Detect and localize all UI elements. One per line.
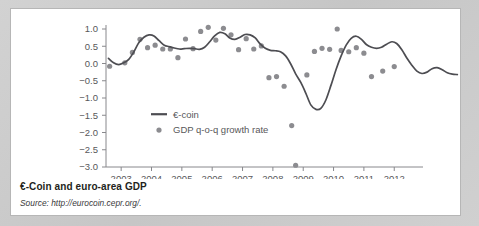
x-tick-label: 2005 [171,173,192,180]
scatter-point [244,36,249,41]
scatter-point [198,29,203,34]
legend-label-eurocoin: €-coin [173,109,199,120]
scatter-point [145,45,150,50]
x-tick-label: 2004 [141,173,162,180]
scatter-point [160,46,165,51]
scatter-point [380,68,385,73]
scatter-point [369,74,374,79]
scatter-point [266,75,271,80]
figure-root: 1.00.50.0−0.5−1.0−1.5−2.0−2.5−3.0 200320… [0,0,479,226]
x-tick-label: 2003 [111,173,132,180]
y-tick-label: 1.0 [85,23,98,34]
x-tick-label: 2009 [293,173,314,180]
scatter-point [236,47,241,52]
scatter-point [304,72,309,77]
x-tick-label: 2011 [354,173,374,180]
scatter-point [213,37,218,42]
scatter-point [153,43,158,48]
scatter-point [183,36,188,41]
x-axis: 2003200420052006200720082009201020112012 [106,167,423,179]
scatter-point [312,49,317,54]
scatter-point [289,123,294,128]
caption-block: €-Coin and euro-area GDP Source: http://… [20,181,450,208]
eurocoin-line-series [108,32,457,109]
scatter-point [327,47,332,52]
figure-caption-title: €-Coin and euro-area GDP [20,181,450,193]
x-tick-label: 2012 [384,173,405,180]
y-tick-label: −1.0 [79,92,98,103]
chart-svg: 1.00.50.0−0.5−1.0−1.5−2.0−2.5−3.0 200320… [11,9,461,179]
x-tick-label: 2010 [323,173,344,180]
scatter-point [319,46,324,51]
y-tick-label: −0.5 [79,75,98,86]
legend-label-gdp: GDP q-o-q growth rate [173,124,268,135]
y-tick-label: −2.5 [79,144,98,155]
scatter-point [206,25,211,30]
y-tick-label: 0.5 [85,41,98,52]
scatter-point [221,26,226,31]
scatter-point [251,46,256,51]
y-tick-label: 0.0 [85,58,98,69]
scatter-point [392,64,397,69]
scatter-point [282,84,287,89]
scatter-point [293,163,298,168]
scatter-point [354,45,359,50]
scatter-point [274,74,279,79]
x-tick-label: 2008 [262,173,283,180]
chart-legend: €-coinGDP q-o-q growth rate [151,109,268,136]
y-axis: 1.00.50.0−0.5−1.0−1.5−2.0−2.5−3.0 [79,23,106,172]
scatter-point [361,51,366,56]
x-tick-label: 2007 [232,173,253,180]
y-tick-label: −1.5 [79,110,98,121]
eurocoin-line-path [108,32,457,109]
scatter-point [346,49,351,54]
figure-card: 1.00.50.0−0.5−1.0−1.5−2.0−2.5−3.0 200320… [10,8,461,216]
y-tick-label: −2.0 [79,127,98,138]
legend-dot-swatch [156,127,161,132]
scatter-point [175,55,180,60]
scatter-point [107,64,112,69]
scatter-point [335,26,340,31]
gdp-scatter-series [107,25,397,168]
figure-source-note: Source: http://eurocoin.cepr.org/. [20,198,450,208]
y-tick-label: −3.0 [79,161,98,172]
x-tick-label: 2006 [202,173,223,180]
chart-plot-area: 1.00.50.0−0.5−1.0−1.5−2.0−2.5−3.0 200320… [11,9,461,179]
